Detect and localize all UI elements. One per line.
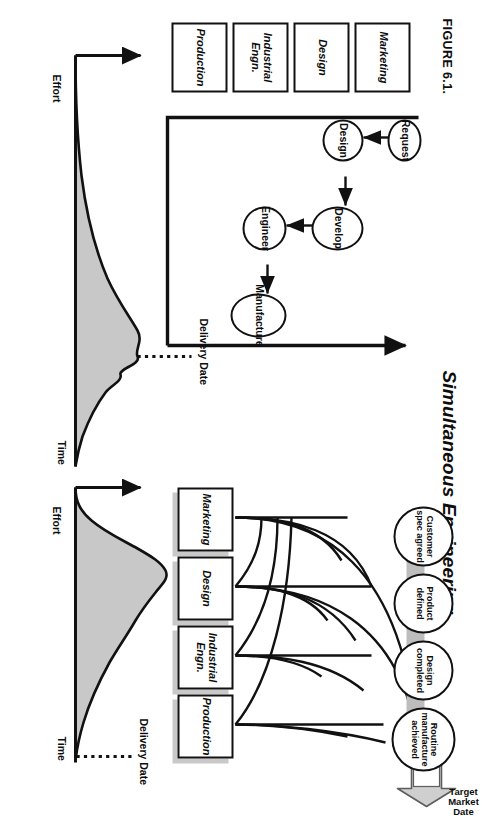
target-market-date-label: Target Market Date	[437, 786, 484, 816]
milestone-label: Product defined	[413, 575, 432, 631]
sim-dept-box-production: Production	[177, 694, 233, 758]
seq-flow-node-design: Design	[322, 119, 363, 161]
sim-dept-label: Design	[199, 570, 211, 607]
sim-dept-box-industrial-engn: Industrial Engn.	[177, 625, 233, 689]
milestone-circle-customer-spec-agreed: Customer spec agreed	[393, 506, 453, 566]
sim-dept-box-marketing: Marketing	[177, 487, 233, 551]
milestone-circle-design-completed: Design completed	[393, 640, 453, 700]
seq-flow-node-manufacture: Manufacture	[230, 293, 286, 337]
seq-flow-node-label: Manufacture	[253, 284, 264, 346]
seq-dept-label: Production	[193, 28, 205, 86]
figure-number-label: FIGURE 6.1.	[439, 18, 453, 94]
seq-flow-node-label: Design	[337, 122, 348, 157]
seq-dept-box-marketing: Marketing	[354, 22, 410, 92]
seq-flow-node-label: Request	[399, 119, 410, 160]
sim-chart-delivery-date-label: Delivery Date	[137, 718, 149, 785]
seq-chart-effort-axis-label: Effort	[50, 74, 62, 102]
seq-dept-label: Design	[315, 39, 327, 76]
seq-chart-delivery-date-label: Delivery Date	[197, 318, 209, 385]
seq-flow-node-develop: Develop	[311, 206, 363, 250]
seq-flow-node-engineer: Engineer	[242, 206, 286, 250]
sim-dept-box-design: Design	[177, 556, 233, 620]
milestone-circle-routine-manufacture-achieved: Routine manufacture achieved	[391, 707, 455, 771]
seq-dept-box-production: Production	[171, 22, 227, 92]
seq-dept-label: Marketing	[376, 31, 388, 83]
milestone-label: Design completed	[413, 642, 432, 698]
sim-chart-time-axis-label: Time	[55, 736, 67, 760]
seq-flow-node-label: Develop	[332, 208, 343, 249]
sim-chart-effort-axis-label: Effort	[50, 506, 62, 534]
seq-dept-box-industrial-engn: Industrial Engn.	[232, 22, 288, 92]
seq-dept-label: Industrial Engn.	[248, 24, 271, 90]
seq-dept-box-design: Design	[293, 22, 349, 92]
milestone-label: Customer spec agreed	[413, 508, 432, 564]
sim-dept-label: Industrial Engn.	[193, 627, 216, 687]
sim-dept-label: Marketing	[199, 493, 211, 545]
seq-flow-node-request: Request	[387, 119, 421, 161]
seq-chart-time-axis-label: Time	[55, 440, 67, 464]
sim-dept-label: Production	[199, 697, 211, 755]
milestone-label: Routine manufacture achieved	[409, 709, 438, 769]
milestone-circle-product-defined: Product defined	[393, 573, 453, 633]
seq-flow-node-label: Engineer	[259, 206, 270, 251]
